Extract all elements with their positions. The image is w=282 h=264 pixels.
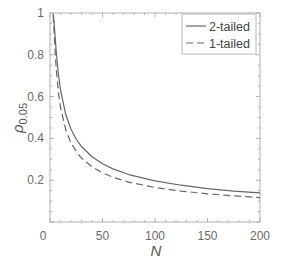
y-tick-label: 0.6 bbox=[27, 90, 44, 104]
chart: 0501001502000.20.40.60.81 N ρ0.05 2-tail… bbox=[0, 0, 282, 264]
y-tick-label: 0.4 bbox=[27, 131, 44, 145]
legend-label-2-tailed: 2-tailed bbox=[209, 20, 250, 34]
legend-label-1-tailed: 1-tailed bbox=[209, 37, 250, 51]
x-tick-label: 100 bbox=[145, 229, 165, 243]
x-tick-label: 50 bbox=[96, 229, 110, 243]
legend: 2-tailed1-tailed bbox=[182, 14, 256, 54]
y-tick-label: 0.2 bbox=[27, 173, 44, 187]
y-axis-label: ρ0.05 bbox=[9, 103, 29, 134]
x-tick-label: 0 bbox=[40, 229, 47, 243]
y-axis-label-main: ρ bbox=[9, 124, 26, 134]
svg-text:ρ0.05: ρ0.05 bbox=[9, 103, 29, 134]
y-tick-label: 1 bbox=[37, 6, 44, 20]
y-tick-label: 0.8 bbox=[27, 48, 44, 62]
x-axis-label: N bbox=[151, 242, 162, 259]
y-axis-label-sub: 0.05 bbox=[17, 103, 29, 124]
x-tick-label: 150 bbox=[197, 229, 217, 243]
x-tick-label: 200 bbox=[250, 229, 270, 243]
